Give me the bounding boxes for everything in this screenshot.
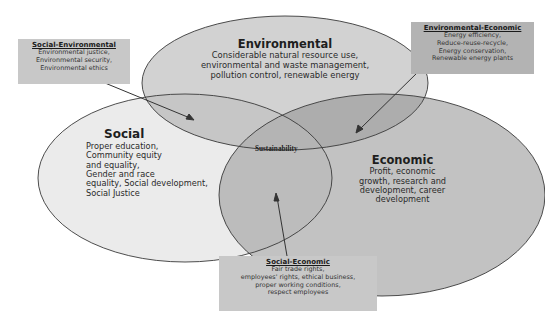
social-title: Social: [86, 128, 236, 142]
environmental-line: pollution control, renewable energy: [180, 71, 390, 81]
callout-line: Environmental ethics: [21, 65, 127, 73]
environmental-label: Environmental Considerable natural resou…: [180, 38, 390, 80]
sustainability-label: Sustainability: [255, 143, 298, 153]
social-label: Social Proper education, Community equit…: [86, 128, 236, 198]
callout-social-environmental: Social-Environmental Environmental justi…: [18, 39, 130, 84]
economic-line: development: [345, 195, 460, 204]
callout-line: Renewable energy plants: [414, 55, 531, 63]
callout-environmental-economic: Environmental-Economic Energy efficiency…: [411, 22, 534, 74]
economic-label: Economic Profit, economic growth, resear…: [345, 154, 460, 205]
callout-social-economic: Social-Economic Fair trade rights, emplo…: [219, 256, 377, 311]
callout-line: respect employees: [222, 289, 374, 297]
social-line: Social Justice: [86, 189, 236, 198]
